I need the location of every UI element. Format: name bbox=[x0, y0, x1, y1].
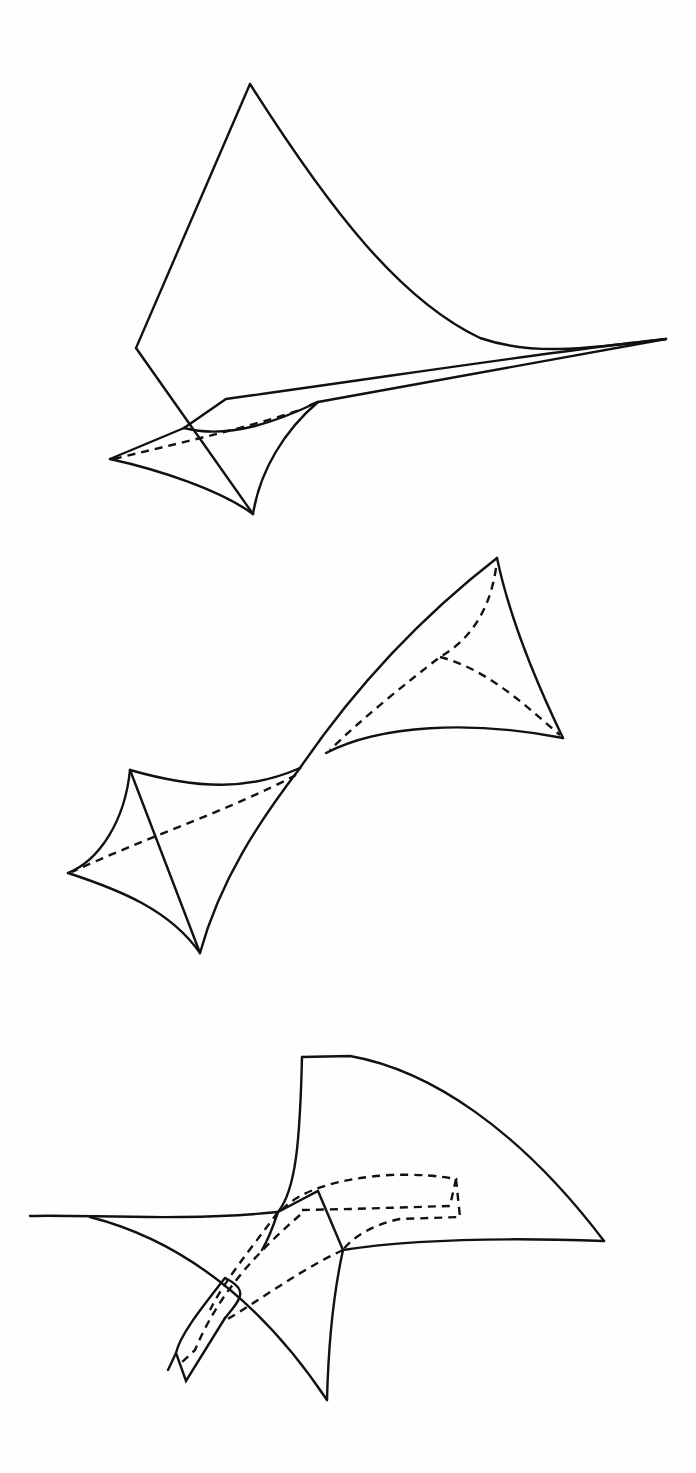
solid-edge bbox=[200, 768, 300, 953]
hidden-edge-dashed bbox=[343, 1179, 460, 1250]
solid-edge bbox=[225, 1278, 240, 1318]
figure-middle-double-cusp bbox=[68, 558, 563, 953]
solid-edge bbox=[30, 1212, 278, 1217]
hidden-edge-dashed bbox=[114, 410, 300, 459]
solid-edge bbox=[90, 1217, 327, 1400]
hidden-edge-dashed bbox=[210, 1212, 278, 1310]
line-drawing-canvas bbox=[0, 0, 696, 1473]
figure-bottom-folded-surface bbox=[30, 1056, 604, 1400]
solid-edge bbox=[184, 402, 318, 432]
hidden-edge-dashed bbox=[440, 657, 560, 735]
solid-edge bbox=[497, 558, 563, 738]
hidden-edge-dashed bbox=[72, 775, 296, 872]
hidden-edge-dashed bbox=[282, 1175, 456, 1210]
solid-edge bbox=[262, 1057, 302, 1250]
hidden-edge-dashed bbox=[226, 1250, 343, 1320]
solid-edge bbox=[168, 1353, 176, 1370]
solid-edge bbox=[68, 770, 130, 873]
solid-edge bbox=[136, 84, 253, 514]
solid-edge bbox=[343, 1239, 604, 1250]
solid-edge bbox=[310, 339, 666, 405]
solid-edge bbox=[302, 1056, 604, 1241]
solid-edge bbox=[250, 84, 666, 349]
figure-page bbox=[0, 0, 696, 1473]
solid-edge bbox=[300, 558, 497, 768]
solid-edge bbox=[110, 459, 253, 514]
solid-edge bbox=[278, 1191, 343, 1250]
figure-top-swallowtail-surface bbox=[110, 84, 666, 514]
solid-edge bbox=[130, 768, 300, 785]
solid-edge bbox=[327, 1250, 343, 1400]
solid-edge bbox=[326, 727, 563, 753]
solid-edge bbox=[253, 402, 318, 514]
solid-edge bbox=[176, 1278, 225, 1381]
solid-edge bbox=[68, 873, 200, 953]
solid-edge bbox=[130, 770, 200, 953]
hidden-edge-dashed bbox=[330, 568, 496, 750]
